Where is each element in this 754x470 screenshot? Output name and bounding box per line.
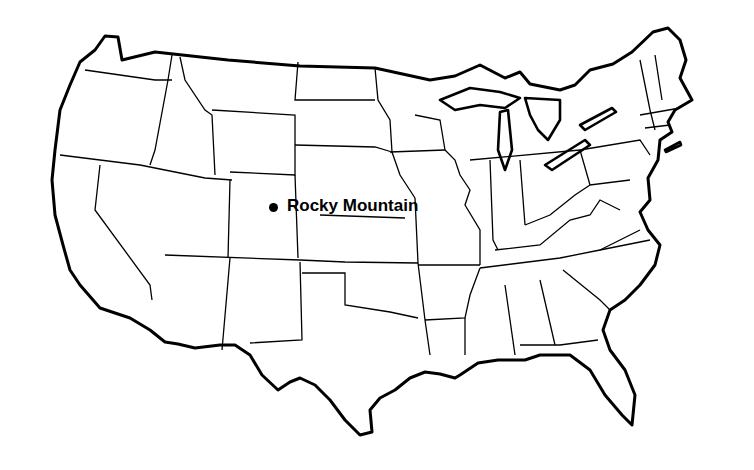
marker-dot-rocky-mountain xyxy=(269,203,278,212)
marker-label-rocky-mountain: Rocky Mountain xyxy=(287,196,418,216)
long-island xyxy=(665,142,681,152)
us-outline-map xyxy=(0,0,754,470)
us-national-border xyxy=(52,28,692,435)
